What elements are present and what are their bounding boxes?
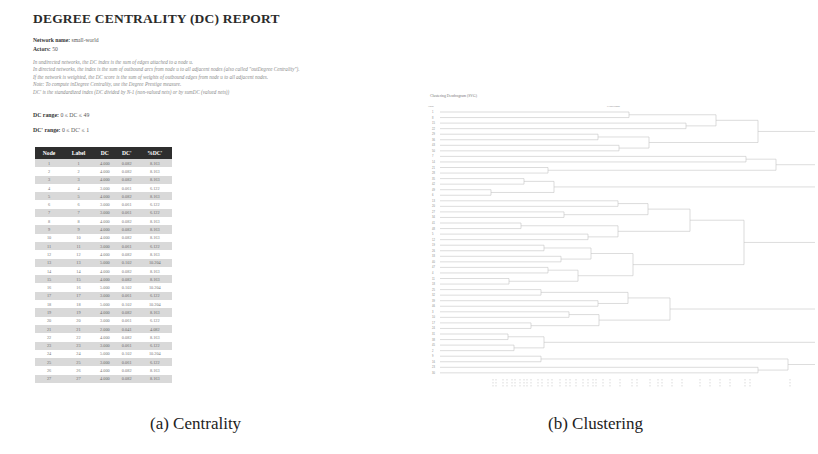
dc-range-line: DC range: 0 ≤ DC ≤ 49 bbox=[33, 112, 89, 118]
table-row: 21212.0000.0414.082 bbox=[35, 325, 172, 333]
cell-dc: 4.000 bbox=[94, 375, 116, 383]
cell-pct-dc-prime: 6.122 bbox=[138, 209, 172, 217]
dendrogram-label: 31 bbox=[432, 332, 435, 336]
table-row: 334.0000.0828.163 bbox=[35, 176, 172, 184]
caption-centrality: (a) Centrality bbox=[150, 414, 241, 434]
cell-label: 20 bbox=[63, 317, 94, 325]
cell-dc-prime: 0.082 bbox=[116, 366, 138, 374]
column-header-pct-dc-prime[interactable]: %DC' bbox=[138, 147, 172, 159]
cell-node: 19 bbox=[35, 308, 63, 316]
cell-node: 27 bbox=[35, 375, 63, 383]
cell-dc-prime: 0.041 bbox=[116, 325, 138, 333]
cell-dc-prime: 0.061 bbox=[116, 242, 138, 250]
table-row: 14144.0000.0828.163 bbox=[35, 267, 172, 275]
cell-node: 18 bbox=[35, 300, 63, 308]
cell-dc-prime: 0.082 bbox=[116, 217, 138, 225]
table-row: 26264.0000.0828.163 bbox=[35, 366, 172, 374]
cell-label: 19 bbox=[63, 308, 94, 316]
cell-dc: 4.000 bbox=[94, 308, 116, 316]
cell-dc: 5.000 bbox=[94, 300, 116, 308]
cell-dc-prime: 0.082 bbox=[116, 159, 138, 167]
dendrogram-label: 21 bbox=[432, 166, 435, 170]
dc-range-label: DC range: bbox=[33, 112, 59, 118]
column-header-dc-prime[interactable]: DC' bbox=[116, 147, 138, 159]
dendrogram-graphic: 1815222936435071421283542496132027344148… bbox=[420, 85, 815, 405]
network-name-line: Network name: small-world bbox=[33, 37, 99, 43]
cell-label: 18 bbox=[63, 300, 94, 308]
cell-dc-prime: 0.082 bbox=[116, 167, 138, 175]
degree-centrality-table: Node Label DC DC' %DC' 114.0000.0828.163… bbox=[35, 147, 172, 383]
cell-dc: 5.000 bbox=[94, 283, 116, 291]
report-description: In undirected networks, the DC index is … bbox=[33, 59, 300, 96]
dendrogram-label: 46 bbox=[432, 304, 435, 308]
column-header-dc[interactable]: DC bbox=[94, 147, 116, 159]
cell-label: 16 bbox=[63, 283, 94, 291]
cell-dc: 4.000 bbox=[94, 250, 116, 258]
column-header-label[interactable]: Label bbox=[63, 147, 94, 159]
cell-node: 3 bbox=[35, 176, 63, 184]
table-row: 773.0000.0616.122 bbox=[35, 209, 172, 217]
cell-dc: 3.000 bbox=[94, 292, 116, 300]
cell-dc: 3.000 bbox=[94, 184, 116, 192]
caption-clustering: (b) Clustering bbox=[548, 414, 643, 434]
cell-pct-dc-prime: 10.204 bbox=[138, 350, 172, 358]
cell-dc-prime: 0.082 bbox=[116, 176, 138, 184]
description-line: Note: To compute inDegree Centrality, us… bbox=[33, 81, 300, 88]
table-header-row: Node Label DC DC' %DC' bbox=[35, 147, 172, 159]
dendrogram-label: 4 bbox=[432, 271, 434, 275]
cell-dc-prime: 0.082 bbox=[116, 234, 138, 242]
cell-dc-prime: 0.082 bbox=[116, 225, 138, 233]
cell-dc: 3.000 bbox=[94, 200, 116, 208]
dendrogram-label: 2 bbox=[432, 349, 434, 353]
cell-pct-dc-prime: 6.122 bbox=[138, 292, 172, 300]
cell-dc-prime: 0.061 bbox=[116, 358, 138, 366]
cell-node: 10 bbox=[35, 234, 63, 242]
cell-node: 6 bbox=[35, 200, 63, 208]
centrality-report-panel: DEGREE CENTRALITY (DC) REPORT Network na… bbox=[30, 8, 410, 398]
description-line: If the network is weighted, the DC score… bbox=[33, 74, 300, 81]
table-row: 10104.0000.0828.163 bbox=[35, 234, 172, 242]
cell-node: 22 bbox=[35, 333, 63, 341]
dendrogram-label: 36 bbox=[432, 138, 435, 142]
dendrogram-label: 13 bbox=[432, 199, 435, 203]
cell-pct-dc-prime: 8.163 bbox=[138, 192, 172, 200]
cell-dc: 5.000 bbox=[94, 259, 116, 267]
cell-dc-prime: 0.061 bbox=[116, 184, 138, 192]
table-row: 443.0000.0616.122 bbox=[35, 184, 172, 192]
cell-node: 25 bbox=[35, 358, 63, 366]
table-row: 13135.0000.10210.204 bbox=[35, 259, 172, 267]
cell-node: 16 bbox=[35, 283, 63, 291]
cell-dc: 4.000 bbox=[94, 217, 116, 225]
cell-dc-prime: 0.082 bbox=[116, 375, 138, 383]
table-row: 19194.0000.0828.163 bbox=[35, 308, 172, 316]
cell-dc-prime: 0.082 bbox=[116, 267, 138, 275]
cell-label: 10 bbox=[63, 234, 94, 242]
cell-dc: 3.000 bbox=[94, 342, 116, 350]
cell-pct-dc-prime: 4.082 bbox=[138, 325, 172, 333]
column-header-node[interactable]: Node bbox=[35, 147, 63, 159]
table-row: 663.0000.0616.122 bbox=[35, 200, 172, 208]
cell-label: 15 bbox=[63, 275, 94, 283]
dendrogram-label: 17 bbox=[432, 321, 435, 325]
cell-label: 17 bbox=[63, 292, 94, 300]
dendrogram-label: 29 bbox=[432, 132, 435, 136]
dendrogram-label: 33 bbox=[432, 254, 435, 258]
cell-node: 14 bbox=[35, 267, 63, 275]
cell-label: 24 bbox=[63, 350, 94, 358]
cell-dc: 3.000 bbox=[94, 209, 116, 217]
cell-pct-dc-prime: 8.163 bbox=[138, 308, 172, 316]
cell-pct-dc-prime: 6.122 bbox=[138, 184, 172, 192]
cell-label: 12 bbox=[63, 250, 94, 258]
dendrogram-label: 47 bbox=[432, 265, 435, 269]
dendrogram-label: 10 bbox=[432, 315, 435, 319]
dc-range-value: 0 ≤ DC ≤ 49 bbox=[60, 112, 89, 118]
cell-node: 5 bbox=[35, 192, 63, 200]
cell-dc-prime: 0.061 bbox=[116, 317, 138, 325]
dendrogram-label: 23 bbox=[432, 365, 435, 369]
dendrogram-label: 28 bbox=[432, 171, 435, 175]
dendrogram-label: 16 bbox=[432, 360, 435, 364]
dendrogram-label: 22 bbox=[432, 127, 435, 131]
dcp-range-label: DC' range: bbox=[33, 127, 61, 133]
dendrogram-label: 1 bbox=[432, 110, 434, 114]
cell-dc-prime: 0.082 bbox=[116, 275, 138, 283]
